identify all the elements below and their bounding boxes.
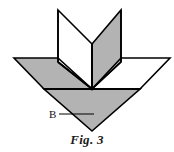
folded-paper-diagram (0, 0, 174, 152)
figure-caption: Fig. 3 (0, 132, 174, 148)
vertex-label-B: B (49, 109, 56, 120)
figure-3-container: B Fig. 3 (0, 0, 174, 152)
